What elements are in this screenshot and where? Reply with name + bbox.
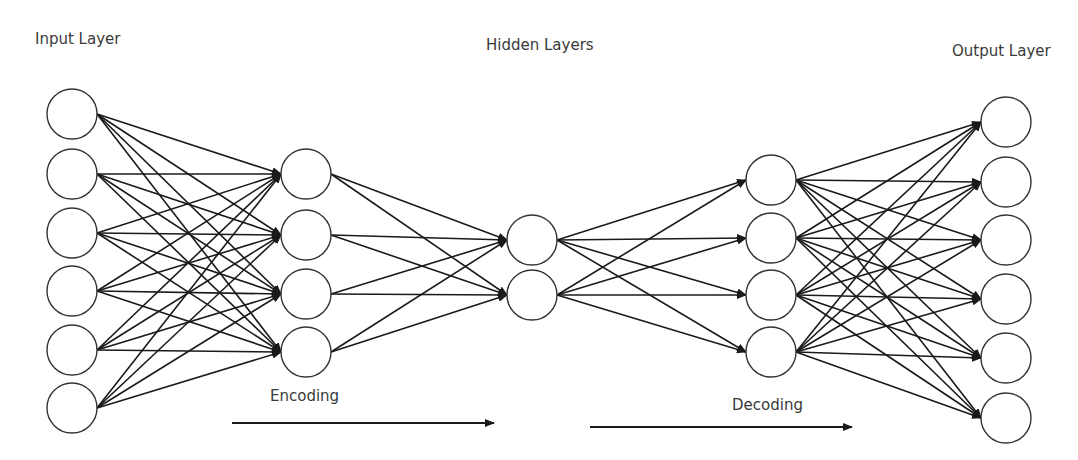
connection-edge [331, 174, 507, 240]
connection-edge [796, 238, 981, 418]
connection-edge [97, 114, 281, 174]
input-neuron-4 [47, 266, 97, 316]
input-neuron-5 [47, 325, 97, 375]
connection-edge [796, 182, 981, 238]
connection-edge [557, 180, 746, 240]
input-neuron-6 [47, 383, 97, 433]
decoding-label: Decoding [732, 396, 803, 414]
connection-edge [557, 295, 746, 352]
connections [97, 114, 981, 418]
input-layer-label: Input Layer [35, 30, 120, 48]
connection-edge [331, 295, 507, 352]
hidden-3-neuron-2 [746, 213, 796, 263]
connection-edge [796, 122, 981, 352]
output-layer-label: Output Layer [952, 42, 1051, 60]
connection-edge [97, 235, 281, 350]
output-neuron-3 [981, 215, 1031, 265]
hidden-1-neuron-1 [281, 149, 331, 199]
input-neuron-3 [47, 208, 97, 258]
connection-edge [331, 240, 507, 352]
hidden-3-neuron-1 [746, 155, 796, 205]
output-neuron-4 [981, 274, 1031, 324]
connection-edge [331, 174, 507, 295]
hidden-3-neuron-4 [746, 327, 796, 377]
connection-edge [796, 122, 981, 180]
bottleneck-neuron-2 [507, 270, 557, 320]
connection-edge [796, 352, 981, 418]
hidden-1-neuron-3 [281, 269, 331, 319]
encoding-label: Encoding [270, 387, 339, 405]
output-neuron-5 [981, 333, 1031, 383]
connection-edge [97, 352, 281, 408]
hidden-1-neuron-4 [281, 327, 331, 377]
connection-edge [331, 294, 507, 295]
input-neuron-1 [47, 89, 97, 139]
hidden-1-neuron-2 [281, 210, 331, 260]
connection-edge [331, 235, 507, 240]
bottleneck-neuron-1 [507, 215, 557, 265]
hidden-layers-label: Hidden Layers [486, 36, 594, 54]
connection-edge [557, 240, 746, 352]
output-neuron-1 [981, 97, 1031, 147]
input-neuron-2 [47, 149, 97, 199]
output-neuron-2 [981, 157, 1031, 207]
autoencoder-diagram [0, 0, 1078, 460]
output-neuron-6 [981, 393, 1031, 443]
hidden-3-neuron-3 [746, 270, 796, 320]
flow-arrows [232, 423, 852, 427]
